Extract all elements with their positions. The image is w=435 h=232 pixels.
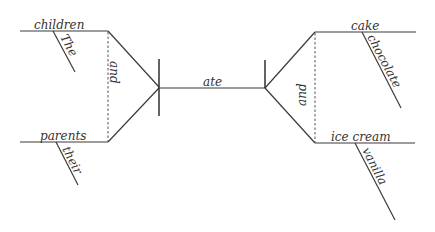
sentence-diagram: children The and parents their ate and c…: [0, 0, 435, 232]
word-cake: cake: [351, 19, 379, 33]
word-vanilla: vanilla: [359, 145, 390, 187]
word-their: their: [59, 144, 85, 178]
word-and-subject: and: [107, 61, 121, 84]
word-children: children: [34, 18, 84, 32]
word-parents: parents: [40, 129, 86, 143]
word-and-object: and: [295, 83, 309, 106]
word-ice-cream: ice cream: [331, 130, 391, 144]
word-chocolate: chocolate: [364, 32, 404, 90]
subject-bottom-fork-line: [108, 88, 159, 142]
word-ate: ate: [203, 75, 222, 89]
object-top-fork-line: [265, 32, 315, 88]
